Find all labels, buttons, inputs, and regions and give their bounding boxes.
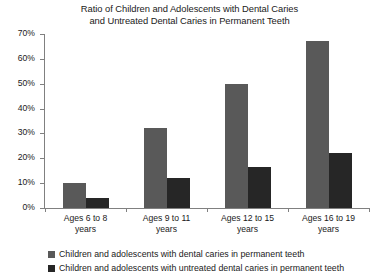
bar-series-1-category-0: [86, 198, 109, 208]
x-axis-tick-mark: [45, 208, 46, 212]
chart-title-line-2: and Untreated Dental Caries in Permanent…: [0, 15, 379, 27]
bar-series-1-category-1: [167, 178, 190, 208]
bar-series-0-category-0: [63, 183, 86, 208]
x-axis-label-1: Ages 9 to 11years: [126, 213, 207, 234]
x-axis-tick-mark: [288, 208, 289, 212]
bar-series-1-category-3: [329, 153, 352, 208]
x-axis-label-line: years: [288, 224, 369, 235]
legend: Children and adolescents with dental car…: [48, 247, 344, 275]
bar-series-1-category-2: [248, 167, 271, 208]
x-axis-label-0: Ages 6 to 8years: [45, 213, 126, 234]
y-axis-tick-mark: [40, 183, 44, 184]
y-axis-tick-mark: [40, 158, 44, 159]
legend-label-series-1: Children and adolescents with untreated …: [59, 263, 344, 273]
legend-swatch-icon-series-0: [48, 251, 55, 258]
y-axis-tick-label: 20%: [18, 152, 35, 163]
x-axis-tick-mark: [207, 208, 208, 212]
y-axis-tick-label: 10%: [18, 177, 35, 188]
y-axis-tick-mark: [40, 109, 44, 110]
bar-chart: Ratio of Children and Adolescents with D…: [0, 0, 379, 279]
x-axis-label-line: Ages 9 to 11: [126, 213, 207, 224]
y-axis-tick-label: 50%: [18, 78, 35, 89]
legend-label-series-0: Children and adolescents with dental car…: [59, 249, 304, 259]
y-axis-tick-label: 40%: [18, 103, 35, 114]
y-axis-tick-mark: [40, 208, 44, 209]
x-axis-label-line: years: [207, 224, 288, 235]
x-axis-label-line: Ages 16 to 19: [288, 213, 369, 224]
legend-item-untreated-dental-caries: Children and adolescents with untreated …: [48, 261, 344, 275]
legend-item-dental-caries: Children and adolescents with dental car…: [48, 247, 344, 261]
bar-series-0-category-2: [225, 84, 248, 208]
x-axis-tick-mark: [369, 208, 370, 212]
bar-series-0-category-1: [144, 128, 167, 208]
y-axis-tick-mark: [40, 34, 44, 35]
y-axis-tick-label: 70%: [18, 28, 35, 39]
legend-swatch-icon-series-1: [48, 265, 55, 272]
x-axis-label-line: years: [126, 224, 207, 235]
y-axis-tick-label: 60%: [18, 53, 35, 64]
x-axis-label-line: years: [45, 224, 126, 235]
y-axis-tick-mark: [40, 133, 44, 134]
bar-series-0-category-3: [306, 41, 329, 208]
y-axis-tick-mark: [40, 84, 44, 85]
y-axis-tick-mark: [40, 59, 44, 60]
chart-title: Ratio of Children and Adolescents with D…: [0, 3, 379, 26]
chart-title-line-1: Ratio of Children and Adolescents with D…: [0, 3, 379, 15]
y-axis-line: [44, 34, 45, 209]
x-axis-label-2: Ages 12 to 15years: [207, 213, 288, 234]
x-axis-tick-mark: [126, 208, 127, 212]
x-axis-label-line: Ages 6 to 8: [45, 213, 126, 224]
y-axis-tick-label: 0%: [23, 202, 35, 213]
y-axis-tick-label: 30%: [18, 127, 35, 138]
x-axis-label-3: Ages 16 to 19years: [288, 213, 369, 234]
x-axis-label-line: Ages 12 to 15: [207, 213, 288, 224]
